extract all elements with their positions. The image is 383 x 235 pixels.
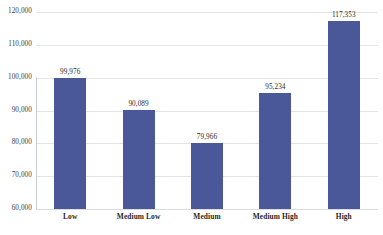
bar-slot: 90,089 bbox=[104, 12, 172, 209]
bar-value-label: 79,966 bbox=[197, 133, 217, 141]
bar[interactable] bbox=[191, 143, 223, 209]
bar-slot: 79,966 bbox=[173, 12, 241, 209]
y-axis-tick-text: 90,000 bbox=[12, 106, 36, 114]
bar-slot: 95,234 bbox=[241, 12, 309, 209]
bar[interactable] bbox=[259, 93, 291, 209]
bar-value-label: 90,089 bbox=[128, 100, 148, 108]
gridline-60000 bbox=[36, 209, 378, 210]
bar-slot: 99,976 bbox=[36, 12, 104, 209]
bar-chart: 99,97690,08979,96695,234117,353 120,0001… bbox=[0, 0, 383, 235]
x-axis-category-label: High bbox=[336, 212, 352, 221]
x-axis-category-label: Medium bbox=[193, 212, 220, 221]
y-axis-tick-text: 60,000 bbox=[12, 204, 36, 212]
y-axis-tick-text: 100,000 bbox=[8, 73, 36, 81]
plot-area: 99,97690,08979,96695,234117,353 bbox=[36, 12, 378, 209]
y-axis-line bbox=[36, 77, 37, 209]
bar-slot: 117,353 bbox=[310, 12, 378, 209]
x-axis-category-label: Medium High bbox=[253, 212, 298, 221]
y-axis-tick-text: 120,000 bbox=[8, 7, 36, 15]
bar-value-label: 99,976 bbox=[60, 68, 80, 76]
y-axis-tick-text: 80,000 bbox=[12, 138, 36, 146]
y-axis-tick-text: 110,000 bbox=[8, 40, 36, 48]
bar[interactable] bbox=[328, 21, 360, 209]
bar-value-label: 95,234 bbox=[265, 83, 285, 91]
x-axis-category-label: Medium Low bbox=[117, 212, 161, 221]
x-axis-category-labels: LowMedium LowMediumMedium HighHigh bbox=[36, 212, 378, 232]
y-axis-tick-text: 70,000 bbox=[12, 171, 36, 179]
bar[interactable] bbox=[54, 78, 86, 209]
bar[interactable] bbox=[123, 110, 155, 209]
x-axis-category-label: Low bbox=[63, 212, 77, 221]
bar-value-label: 117,353 bbox=[332, 11, 356, 19]
